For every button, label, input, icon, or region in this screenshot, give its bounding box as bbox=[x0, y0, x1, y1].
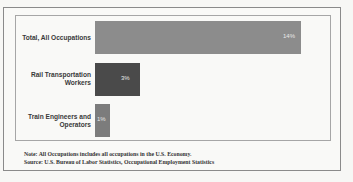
bar-value-label: 1% bbox=[97, 116, 106, 122]
category-label-text: Total, All Occupations bbox=[22, 34, 91, 41]
bar-total-all-occupations: 14% bbox=[95, 21, 301, 54]
category-label-total: Total, All Occupations bbox=[11, 34, 91, 42]
source-text: Source: U.S. Bureau of Labor Statistics,… bbox=[24, 158, 214, 166]
chart-notes: Note: All Occupations includes all occup… bbox=[24, 150, 214, 166]
category-label-text: Rail Transportation bbox=[11, 71, 91, 79]
category-label-rail: Rail Transportation Workers bbox=[11, 71, 91, 87]
category-label-text: Train Engineers and bbox=[11, 113, 91, 121]
bar-train-engineers-operators: 1% bbox=[95, 104, 110, 137]
bar-value-label: 14% bbox=[283, 33, 295, 39]
category-label-train-engineers: Train Engineers and Operators bbox=[11, 113, 91, 129]
category-label-text: Operators bbox=[11, 121, 91, 129]
category-label-text: Workers bbox=[11, 79, 91, 87]
note-text: Note: All Occupations includes all occup… bbox=[24, 150, 214, 158]
bar-value-label: 3% bbox=[121, 75, 130, 81]
bar-rail-transportation-workers: 3% bbox=[95, 63, 140, 96]
